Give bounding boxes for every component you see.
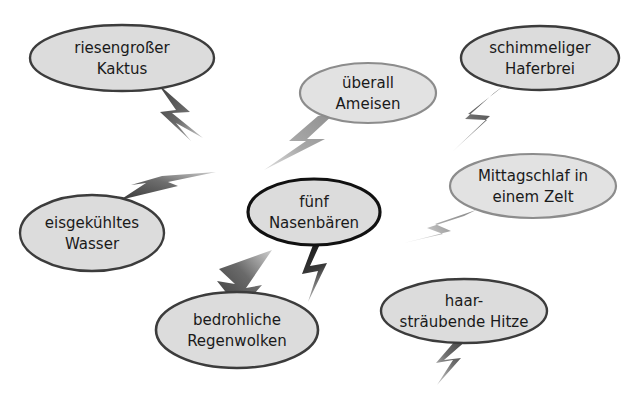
thought-bubble[interactable]: bedrohlicheRegenwolken <box>156 292 318 368</box>
bubble-ellipse[interactable] <box>450 154 616 218</box>
bubble-label-line: Nasenbären <box>269 213 359 231</box>
bubble-label-line: einem Zelt <box>492 187 573 205</box>
bubble-label-line: Mittagschlaf in <box>478 166 588 184</box>
bubble-ellipse[interactable] <box>248 179 380 245</box>
bubble-ellipse[interactable] <box>20 195 164 271</box>
bubble-label-line: Wasser <box>65 234 120 252</box>
bubble-label-line: fünf <box>299 192 329 210</box>
bubble-ellipse[interactable] <box>30 25 214 91</box>
bubble-ellipse[interactable] <box>461 26 619 90</box>
bubble-label-line: überall <box>342 73 394 91</box>
bubble-label-line: eisgekühltes <box>45 213 139 231</box>
scene-svg: riesengroßerKaktusüberallAmeisenschimmel… <box>0 0 631 401</box>
bubble-label-line: riesengroßer <box>74 38 170 56</box>
bubble-label-line: haar- <box>445 291 484 309</box>
bubble-label-line: sträubende Hitze <box>400 312 529 330</box>
thought-bubble-canvas: riesengroßerKaktusüberallAmeisenschimmel… <box>0 0 631 401</box>
bubble-label-line: Regenwolken <box>187 331 287 349</box>
thought-bubble[interactable]: riesengroßerKaktus <box>30 25 214 91</box>
thought-bubble[interactable]: haar-sträubende Hitze <box>381 279 547 343</box>
thought-bubble[interactable]: Mittagschlaf ineinem Zelt <box>450 154 616 218</box>
bubble-label-line: bedrohliche <box>193 310 281 328</box>
bubble-ellipse[interactable] <box>300 63 436 123</box>
bubble-label-line: schimmeliger <box>489 38 591 56</box>
thought-bubble[interactable]: eisgekühltesWasser <box>20 195 164 271</box>
thought-bubble[interactable]: fünfNasenbären <box>248 179 380 245</box>
bubble-ellipse[interactable] <box>156 292 318 368</box>
thought-bubble[interactable]: schimmeligerHaferbrei <box>461 26 619 90</box>
bubble-ellipse[interactable] <box>381 279 547 343</box>
bubble-label-line: Ameisen <box>336 94 401 112</box>
thought-bubble[interactable]: überallAmeisen <box>300 63 436 123</box>
bubble-label-line: Haferbrei <box>505 59 575 77</box>
bubble-label-line: Kaktus <box>97 59 148 77</box>
